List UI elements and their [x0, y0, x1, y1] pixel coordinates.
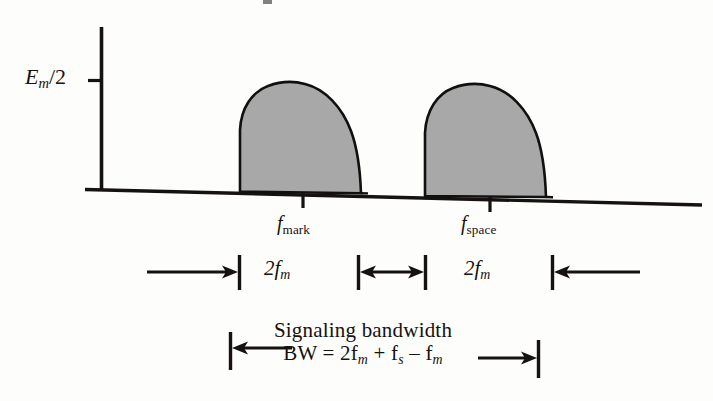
dimension-label-left-sub: m — [280, 267, 290, 282]
spectrum-lobes — [240, 82, 553, 197]
bandwidth-formula-sub1: m — [358, 352, 368, 367]
dimension-label-right: 2fm — [464, 258, 490, 282]
bw-arrow-right — [478, 352, 537, 365]
dim-arrow-far-left — [147, 266, 238, 279]
bandwidth-formula-minus: – f — [404, 341, 433, 365]
y-axis-label: Em/2 — [25, 66, 66, 91]
bandwidth-formula: BW = 2fm + fs – fm — [248, 343, 478, 367]
y-axis-label-suffix: /2 — [49, 64, 66, 89]
bandwidth-caption: Signaling bandwidth BW = 2fm + fs – fm — [248, 320, 478, 367]
mark-lobe — [240, 82, 361, 193]
y-axis-label-main: E — [25, 64, 38, 89]
space-lobe — [425, 84, 546, 197]
dimension-label-right-main: 2f — [464, 256, 480, 280]
dimension-row — [147, 255, 640, 290]
bandwidth-formula-prefix: BW = 2f — [283, 341, 358, 365]
axis-group — [85, 27, 702, 205]
f-space-label-sub: space — [467, 222, 497, 237]
dim-arrow-middle — [360, 266, 424, 279]
bandwidth-title: Signaling bandwidth — [248, 320, 478, 341]
f-mark-label: fmark — [277, 213, 310, 236]
bandwidth-formula-sub3: m — [433, 352, 443, 367]
figure-canvas: Em/2 fmark fspace 2fm 2fm Signaling band… — [0, 0, 713, 401]
bandwidth-formula-mid: + f — [368, 341, 398, 365]
dimension-label-left-main: 2f — [264, 256, 280, 280]
dim-arrow-far-right — [554, 266, 640, 279]
x-axis-line — [85, 190, 702, 206]
dimension-label-left: 2fm — [264, 258, 290, 282]
dimension-label-right-sub: m — [480, 267, 490, 282]
f-space-label: fspace — [461, 213, 496, 236]
y-axis-label-sub: m — [38, 75, 48, 91]
f-mark-label-sub: mark — [283, 222, 311, 237]
